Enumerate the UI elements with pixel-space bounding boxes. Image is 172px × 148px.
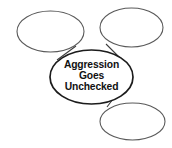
bubble-bottom-right[interactable] [100, 103, 165, 140]
bubble-top-left[interactable] [17, 11, 84, 52]
concept-web-diagram: Aggression Goes Unchecked [0, 0, 172, 148]
diagram-svg-canvas: Aggression Goes Unchecked [0, 0, 172, 148]
bubble-top-right[interactable] [100, 8, 163, 47]
center-label-line-3: Unchecked [65, 81, 119, 92]
center-label-line-2: Goes [79, 70, 105, 81]
center-label-line-1: Aggression [64, 59, 119, 70]
